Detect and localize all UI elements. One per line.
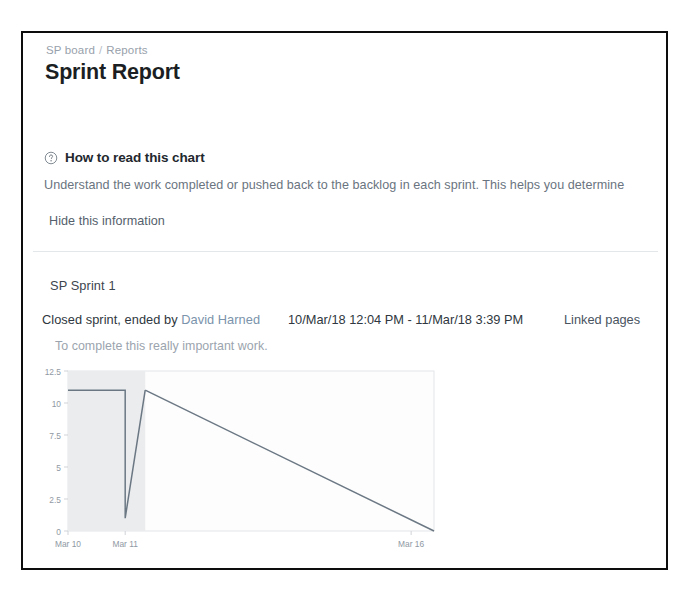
breadcrumb-reports[interactable]: Reports <box>106 44 147 56</box>
sprint-status: Closed sprint, ended by David Harned <box>42 312 260 327</box>
linked-pages-link[interactable]: Linked pages <box>564 312 640 327</box>
x-tick-label: Mar 16 <box>398 539 424 549</box>
help-heading-row: How to read this chart <box>44 150 205 165</box>
burndown-chart: 02.557.51012.5Mar 10Mar 11Mar 16 <box>38 363 438 563</box>
sprint-shade <box>68 371 145 531</box>
y-tick-label: 12.5 <box>45 367 62 377</box>
question-circle-icon <box>44 151 58 165</box>
y-tick-label: 0 <box>56 527 61 537</box>
y-tick-label: 5 <box>56 463 61 473</box>
y-tick-label: 2.5 <box>49 495 61 505</box>
help-heading: How to read this chart <box>65 150 205 165</box>
report-inner: SP board/Reports Sprint Report How to re… <box>23 33 666 568</box>
section-divider <box>33 251 658 252</box>
report-frame: SP board/Reports Sprint Report How to re… <box>21 31 668 570</box>
breadcrumb-separator: / <box>95 44 106 56</box>
sprint-date-range: 10/Mar/18 12:04 PM - 11/Mar/18 3:39 PM <box>288 312 523 327</box>
sprint-name: SP Sprint 1 <box>50 278 116 293</box>
breadcrumb-board[interactable]: SP board <box>46 44 95 56</box>
x-tick-label: Mar 11 <box>112 539 138 549</box>
sprint-status-prefix: Closed sprint, ended by <box>42 312 181 327</box>
y-tick-label: 7.5 <box>49 431 61 441</box>
hide-information-link[interactable]: Hide this information <box>49 214 165 228</box>
page-title: Sprint Report <box>45 60 180 85</box>
y-tick-label: 10 <box>52 399 62 409</box>
x-tick-label: Mar 10 <box>55 539 81 549</box>
sprint-author[interactable]: David Harned <box>181 312 260 327</box>
breadcrumb: SP board/Reports <box>46 44 148 56</box>
burndown-chart-svg: 02.557.51012.5Mar 10Mar 11Mar 16 <box>38 363 438 563</box>
help-body-text: Understand the work completed or pushed … <box>44 178 666 192</box>
sprint-goal: To complete this really important work. <box>55 339 268 353</box>
